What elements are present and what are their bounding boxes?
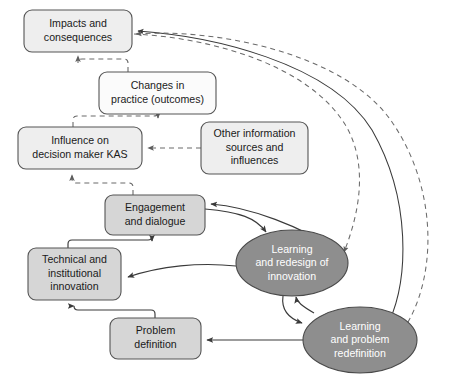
edge-learning-redesign-to-technical: [128, 264, 236, 277]
node-changes-in-practice[interactable]: Changes in practice (outcomes): [99, 72, 216, 114]
node-learning-and-problem-redefinition[interactable]: Learning and problem redefinition: [303, 307, 417, 373]
diagram-canvas: Impacts and consequences Changes in prac…: [0, 0, 464, 379]
node-engagement-shape[interactable]: [105, 195, 205, 235]
node-problem-shape[interactable]: [110, 318, 201, 359]
node-changes-shape[interactable]: [99, 72, 216, 114]
diagram-root: Impacts and consequences Changes in prac…: [0, 0, 464, 379]
node-impacts-and-consequences[interactable]: Impacts and consequences: [24, 10, 132, 52]
node-influence-on-decision-maker[interactable]: Influence on decision maker KAS: [18, 127, 142, 169]
edge-learning-problem-to-learning-redesign: [296, 297, 314, 313]
node-other-info-shape[interactable]: [201, 122, 308, 174]
edge-technical-to-engagement: [68, 236, 152, 248]
node-influence-shape[interactable]: [18, 127, 142, 169]
node-learning-problem-shape[interactable]: [303, 307, 417, 373]
edge-engagement-to-learning-redesign: [205, 209, 266, 232]
edge-engagement-to-influence: [72, 175, 133, 195]
node-engagement-and-dialogue[interactable]: Engagement and dialogue: [105, 195, 205, 235]
edge-learning-redesign-to-learning-problem: [283, 296, 302, 323]
node-learning-redesign-shape[interactable]: [236, 230, 348, 296]
node-technical-shape[interactable]: [28, 248, 121, 300]
node-impacts-shape[interactable]: [24, 10, 132, 52]
edge-changes-to-impacts: [78, 56, 128, 72]
node-technical-and-institutional-innovation[interactable]: Technical and institutional innovation: [28, 248, 121, 300]
node-layer: Impacts and consequences Changes in prac…: [18, 10, 417, 373]
node-learning-and-redesign-of-innovation[interactable]: Learning and redesign of innovation: [236, 230, 348, 296]
node-problem-definition[interactable]: Problem definition: [110, 318, 201, 359]
node-other-information-sources[interactable]: Other information sources and influences: [201, 122, 308, 174]
edge-problem-to-technical: [74, 306, 155, 318]
